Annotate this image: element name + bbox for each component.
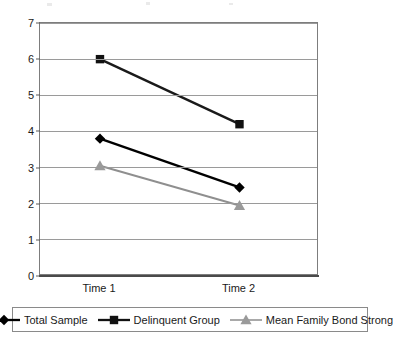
- gridline: [40, 131, 317, 132]
- y-axis-tick-label: 1: [28, 234, 34, 245]
- diamond-icon: [0, 314, 21, 326]
- x-axis-tick-label: Time 2: [222, 282, 255, 294]
- y-axis-tick-label: 2: [28, 198, 34, 209]
- gridline: [40, 23, 317, 24]
- legend-label: Mean Family Bond Strong: [266, 314, 393, 326]
- series-line: [100, 166, 240, 206]
- data-point-marker: [94, 160, 105, 170]
- y-axis-tick-mark: [36, 239, 40, 240]
- square-icon: [97, 314, 131, 326]
- gridline: [40, 95, 317, 96]
- gridline: [40, 239, 317, 240]
- y-axis-tick-mark: [36, 203, 40, 204]
- legend-entry: Delinquent Group: [97, 314, 220, 326]
- chart-legend: Total SampleDelinquent GroupMean Family …: [12, 307, 368, 332]
- y-axis-tick-mark: [36, 167, 40, 168]
- series-total-sample: [95, 133, 245, 192]
- gridline: [40, 167, 317, 168]
- scan-artifact: [146, 2, 150, 5]
- y-axis-tick-mark: [36, 276, 40, 277]
- y-axis-tick-label: 3: [28, 162, 34, 173]
- legend-entry: Mean Family Bond Strong: [229, 314, 393, 326]
- legend-label: Total Sample: [24, 314, 88, 326]
- y-axis-tick-mark: [36, 131, 40, 132]
- gridline: [40, 59, 317, 60]
- y-axis-tick-label: 5: [28, 90, 34, 101]
- y-axis-tick-mark: [36, 23, 40, 24]
- triangle-icon: [229, 314, 263, 326]
- series-line: [100, 139, 240, 188]
- x-axis-tick-label: Time 1: [82, 282, 115, 294]
- y-axis-tick-label: 7: [28, 18, 34, 29]
- data-point-marker: [95, 133, 105, 143]
- gridline: [40, 203, 317, 204]
- scan-artifact: [229, 3, 233, 5]
- series-delinquent-group: [96, 55, 244, 128]
- data-point-marker: [235, 120, 243, 128]
- y-axis-tick-mark: [36, 95, 40, 96]
- legend-label: Delinquent Group: [134, 314, 220, 326]
- y-axis-tick-mark: [36, 59, 40, 60]
- data-point-marker: [234, 182, 244, 192]
- y-axis-tick-label: 6: [28, 54, 34, 65]
- y-axis-tick-label: 4: [28, 126, 34, 137]
- plot-area: 01234567: [39, 22, 318, 275]
- series-line: [100, 59, 240, 124]
- scan-artifact: [47, 3, 52, 6]
- y-axis-tick-label: 0: [28, 271, 34, 282]
- legend-entry: Total Sample: [0, 314, 88, 326]
- series-layer: [40, 23, 319, 276]
